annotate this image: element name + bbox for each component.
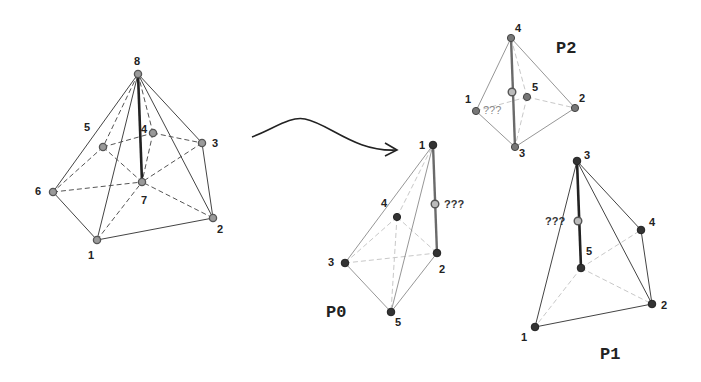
- edge-4-7: [142, 133, 153, 182]
- edge-8-1: [97, 74, 138, 240]
- node-3: [198, 139, 205, 146]
- edge-8-6: [53, 74, 138, 192]
- node-4: [637, 226, 645, 234]
- edge-5-2: [391, 253, 437, 312]
- node-5: [577, 264, 585, 272]
- node-label-2: 2: [217, 223, 223, 235]
- edge-4-3: [345, 217, 397, 263]
- unknown-node: [574, 217, 582, 225]
- partition-p1: 1 2 3 4 5 ??? P1: [521, 149, 667, 364]
- node-2: [209, 214, 216, 221]
- node-1: [429, 141, 437, 149]
- node-3: [341, 259, 349, 267]
- node-2: [433, 249, 441, 257]
- edge-8-3: [138, 74, 202, 143]
- edge-2-7: [142, 182, 213, 218]
- mesh-partition-diagram: 1 2 3 4 5 6 7 8 1 2 3 4 5 ??? P0: [0, 0, 701, 382]
- edge-5-1: [535, 268, 581, 327]
- node-5: [387, 308, 395, 316]
- edge-1-3: [476, 111, 515, 147]
- edge-6-1: [53, 192, 97, 240]
- unknown-node-label: ???: [444, 198, 464, 210]
- node-label-1: 1: [465, 93, 471, 105]
- highlighted-edge-3-5: [577, 161, 581, 268]
- arrow-curve: [252, 119, 396, 151]
- node-label-6: 6: [35, 185, 41, 197]
- edge-4-1: [476, 38, 511, 111]
- node-2: [571, 104, 578, 111]
- edge-3-4: [577, 161, 641, 230]
- edge-3-7: [142, 143, 202, 182]
- transform-arrow: [252, 119, 397, 156]
- node-label-4: 4: [381, 197, 388, 209]
- edge-5-7: [103, 147, 142, 182]
- edge-4-2: [397, 217, 437, 253]
- node-6: [49, 188, 56, 195]
- partition-p2: 1 2 3 4 5 ??? P2: [465, 22, 585, 159]
- edge-1-3: [345, 145, 433, 263]
- node-label-1: 1: [419, 139, 425, 151]
- edge-5-2: [581, 268, 652, 304]
- node-label-1: 1: [521, 331, 527, 343]
- node-label-2: 2: [439, 263, 445, 275]
- edge-6-7: [53, 182, 142, 192]
- unknown-node: [508, 88, 516, 96]
- highlighted-edge-1-2: [433, 145, 437, 253]
- partition-label-p0: P0: [326, 303, 346, 322]
- node-label-5: 5: [532, 81, 538, 93]
- node-label-1: 1: [88, 249, 94, 261]
- node-label-3: 3: [519, 147, 525, 159]
- node-5: [523, 93, 530, 100]
- unknown-node-label: ???: [545, 215, 565, 227]
- edge-5-2: [527, 97, 575, 108]
- node-8: [134, 70, 141, 77]
- edge-4-5: [391, 217, 397, 312]
- node-label-7: 7: [141, 194, 147, 206]
- node-1: [472, 107, 479, 114]
- partition-label-p2: P2: [556, 39, 576, 58]
- edge-3-5: [345, 263, 391, 312]
- node-label-8: 8: [134, 55, 140, 67]
- node-label-5: 5: [395, 316, 401, 328]
- node-label-5: 5: [586, 245, 592, 257]
- original-pyramid: 1 2 3 4 5 6 7 8: [35, 55, 223, 261]
- edge-8-5: [103, 74, 138, 147]
- node-label-3: 3: [328, 256, 334, 268]
- edge-5-3: [515, 97, 527, 147]
- node-label-4: 4: [141, 123, 148, 135]
- node-label-4: 4: [649, 216, 656, 228]
- edge-1-5: [391, 145, 433, 312]
- node-1: [531, 323, 539, 331]
- node-label-3: 3: [212, 137, 218, 149]
- node-3: [573, 157, 581, 165]
- node-4: [507, 34, 514, 41]
- edge-5-6: [53, 147, 103, 192]
- node-5: [99, 143, 106, 150]
- unknown-node: [431, 200, 439, 208]
- partition-label-p1: P1: [600, 345, 620, 364]
- edge-3-2: [515, 108, 575, 147]
- edge-5-4: [103, 133, 153, 147]
- node-3: [511, 143, 518, 150]
- edge-3-1: [535, 161, 577, 327]
- node-4: [149, 129, 156, 136]
- node-label-3: 3: [584, 149, 590, 161]
- node-label-5: 5: [84, 121, 90, 133]
- node-label-2: 2: [579, 92, 585, 104]
- node-2: [648, 300, 656, 308]
- unknown-node-label: ???: [483, 104, 501, 116]
- node-1: [93, 236, 100, 243]
- edge-1-2: [97, 218, 213, 240]
- node-7: [138, 178, 145, 185]
- edge-1-2: [535, 304, 652, 327]
- edge-4-1: [397, 145, 433, 217]
- node-label-2: 2: [661, 299, 667, 311]
- node-4: [393, 213, 400, 220]
- edge-3-2: [345, 253, 437, 263]
- node-label-4: 4: [515, 22, 522, 34]
- partition-p0: 1 2 3 4 5 ??? P0: [326, 139, 464, 328]
